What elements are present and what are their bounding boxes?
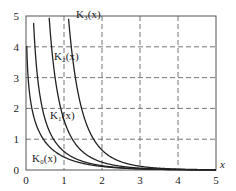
label-k3: K₃(x) — [76, 8, 101, 21]
x-tick-label: 2 — [99, 174, 105, 186]
label-k0: K₀(x) — [32, 152, 57, 165]
curve-k2x — [49, 18, 216, 170]
label-k2: K₂(x) — [54, 50, 79, 63]
curves — [27, 18, 216, 170]
curve-k1x — [34, 23, 216, 170]
bessel-k-chart: 012345 012345 x K₃(x) K₂(x) K₁(x) K₀(x) — [0, 0, 236, 191]
y-tick-label: 3 — [14, 72, 20, 84]
x-axis-label: x — [219, 158, 225, 170]
x-tick-label: 0 — [23, 174, 29, 186]
y-tick-label: 1 — [14, 133, 20, 145]
x-tick-label: 1 — [61, 174, 67, 186]
plot-frame — [26, 16, 216, 170]
curve-k3x — [69, 19, 216, 170]
grid — [26, 16, 216, 170]
y-tick-label: 0 — [14, 164, 20, 176]
y-tick-label: 5 — [14, 10, 20, 22]
x-tick-label: 3 — [137, 174, 143, 186]
y-tick-labels: 012345 — [14, 10, 20, 176]
x-tick-labels: 012345 — [23, 174, 219, 186]
label-k1: K₁(x) — [50, 109, 75, 122]
x-tick-label: 4 — [175, 174, 181, 186]
y-tick-label: 4 — [14, 41, 20, 53]
y-tick-label: 2 — [14, 102, 20, 114]
x-tick-label: 5 — [213, 174, 219, 186]
